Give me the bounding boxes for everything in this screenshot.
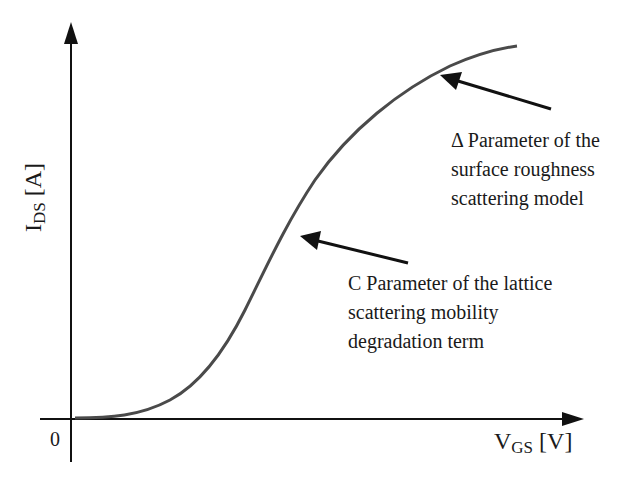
annotation-arrowhead-delta-icon [440,72,462,90]
origin-label: 0 [50,428,60,451]
x-axis-arrow-icon [562,412,584,426]
annotation-c-line-2: scattering mobility [348,298,499,327]
y-axis-arrow-icon [64,22,78,44]
annotation-arrow-c [318,241,408,263]
annotation-delta-line-1: Δ Parameter of the [451,126,600,155]
chart-canvas: IDS [A] VGS [V] 0 Δ Parameter of the sur… [0,0,636,486]
annotation-c-line-1: C Parameter of the lattice [348,269,552,298]
annotation-c-line-3: degradation term [348,327,484,356]
y-axis-label: IDS [A] [20,163,47,232]
curve-ids-vgs [75,46,517,418]
x-axis-label: VGS [V] [494,428,572,455]
chart-plot [0,0,636,486]
annotation-delta-line-2: surface roughness [451,155,595,184]
annotation-arrowhead-c-icon [300,231,321,250]
annotation-arrow-delta [458,81,551,109]
annotation-delta-line-3: scattering model [451,184,584,213]
